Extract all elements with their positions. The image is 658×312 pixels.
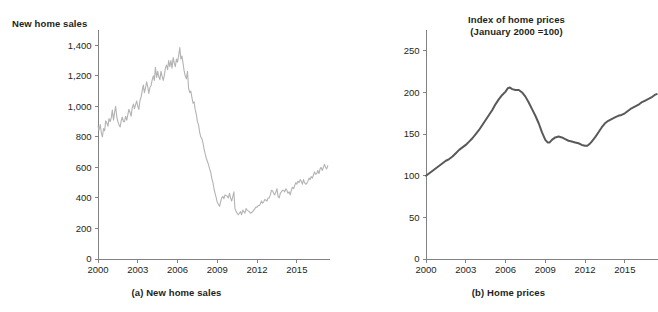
x-tick-label: 2015 [614, 264, 635, 275]
chart-a-caption: (a) New home sales [0, 287, 329, 298]
y-tick-label: 400 [76, 192, 92, 203]
y-tick-label: 0 [86, 253, 91, 264]
x-tick-label: 2006 [495, 264, 516, 275]
chart-b-axes [423, 30, 658, 263]
x-tick-label: 2000 [87, 264, 108, 275]
y-tick-label: 100 [404, 170, 420, 181]
figure-container: New home sales 02004006008001,0001,2001,… [0, 0, 658, 312]
chart-panel-new-home-sales: New home sales 02004006008001,0001,2001,… [0, 0, 329, 312]
x-tick-label: 2015 [286, 264, 307, 275]
y-tick-label: 50 [409, 212, 420, 223]
x-tick-label: 2003 [127, 264, 148, 275]
y-tick-label: 200 [76, 223, 92, 234]
chart-a-plot: 02004006008001,0001,2001,400200020032006… [0, 0, 329, 312]
x-tick-label: 2000 [415, 264, 436, 275]
y-tick-label: 1,200 [68, 70, 92, 81]
x-tick-label: 2012 [247, 264, 268, 275]
y-tick-label: 0 [414, 253, 419, 264]
x-tick-label: 2003 [455, 264, 476, 275]
x-tick-label: 2006 [167, 264, 188, 275]
y-tick-label: 1,400 [68, 40, 92, 51]
chart-b-tick-labels: 050100150200250200020032006200920122015 [404, 45, 636, 275]
chart-b-plot: 050100150200250200020032006200920122015 [329, 0, 658, 312]
chart-a-data-line [98, 48, 328, 215]
y-tick-label: 600 [76, 162, 92, 173]
chart-b-data-line [426, 87, 657, 175]
chart-a-axes [95, 30, 331, 263]
chart-panel-home-prices: Index of home prices (January 2000 =100)… [329, 0, 658, 312]
chart-b-caption: (b) Home prices [329, 287, 658, 298]
x-tick-label: 2009 [207, 264, 228, 275]
x-tick-label: 2009 [535, 264, 556, 275]
y-tick-label: 150 [404, 128, 420, 139]
y-tick-label: 200 [404, 87, 420, 98]
y-tick-label: 1,000 [68, 101, 92, 112]
y-tick-label: 250 [404, 45, 420, 56]
x-tick-label: 2012 [575, 264, 596, 275]
y-tick-label: 800 [76, 131, 92, 142]
